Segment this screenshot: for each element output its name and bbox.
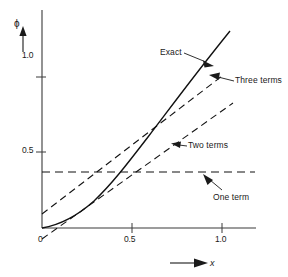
annotation-label-exact: Exact [160,47,182,57]
three-terms-annotation-arrow-icon [209,73,234,82]
y-axis-title: ϕ [14,18,20,29]
plot-canvas [0,0,288,277]
x-tick-label-1.0: 1.0 [215,234,226,244]
annotation-label-three-terms: Three terms [235,75,282,85]
annotation-label-two-terms: Two terms [188,140,228,150]
y-tick-label-1.0: 1.0 [22,50,33,60]
y-tick-label-0.5: 0.5 [22,145,33,155]
series-two-terms [42,103,233,239]
one-term-annotation-arrow-icon [203,174,222,190]
x-tick-label-0.5: 0.5 [124,234,135,244]
chart-figure: ϕ x 1.0 0.5 0 0.5 1.0 Exact Three terms … [0,0,288,277]
annotation-label-one-term: One term [213,192,249,202]
exact-annotation-arrow-icon [184,53,214,68]
y-axis-arrow-icon [19,26,26,52]
two-terms-annotation-arrow-icon [171,142,187,149]
x-axis-arrow-icon [170,259,208,268]
x-axis-title: x [210,258,215,268]
x-tick-label-0: 0 [38,234,43,244]
